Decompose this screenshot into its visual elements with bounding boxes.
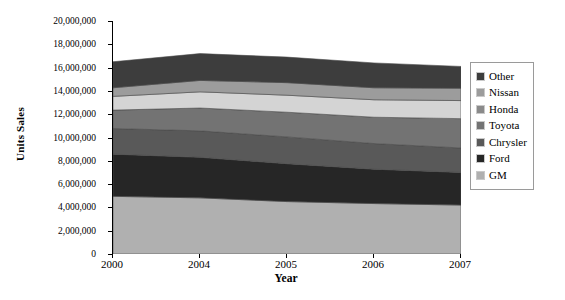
legend-swatch-icon bbox=[476, 138, 485, 147]
legend-item-label: Ford bbox=[489, 153, 510, 164]
legend-item-toyota[interactable]: Toyota bbox=[476, 118, 527, 135]
x-axis-tick-label: 2006 bbox=[343, 258, 403, 270]
x-axis-tick-label: 2000 bbox=[82, 258, 142, 270]
legend-item-honda[interactable]: Honda bbox=[476, 101, 527, 118]
legend-item-gm[interactable]: GM bbox=[476, 167, 527, 184]
legend-item-label: Other bbox=[489, 71, 514, 82]
x-axis-tick-mark bbox=[286, 254, 287, 258]
x-axis-tick-mark bbox=[112, 254, 113, 258]
legend-swatch-icon bbox=[476, 154, 485, 163]
x-axis-tick-label: 2004 bbox=[169, 258, 229, 270]
legend-item-ford[interactable]: Ford bbox=[476, 151, 527, 168]
x-axis-tick-mark bbox=[460, 254, 461, 258]
legend-item-nissan[interactable]: Nissan bbox=[476, 85, 527, 102]
legend-swatch-icon bbox=[476, 105, 485, 114]
legend-item-label: Nissan bbox=[489, 87, 519, 98]
legend-item-label: GM bbox=[489, 170, 507, 181]
legend-swatch-icon bbox=[476, 121, 485, 130]
legend-swatch-icon bbox=[476, 72, 485, 81]
legend-item-other[interactable]: Other bbox=[476, 68, 527, 85]
x-axis-tick-label: 2007 bbox=[430, 258, 490, 270]
legend-item-chrysler[interactable]: Chrysler bbox=[476, 134, 527, 151]
x-axis-tick-mark bbox=[199, 254, 200, 258]
legend-item-label: Chrysler bbox=[489, 137, 527, 148]
legend-item-label: Toyota bbox=[489, 120, 519, 131]
x-axis-tick-label: 2005 bbox=[256, 258, 316, 270]
legend-item-label: Honda bbox=[489, 104, 518, 115]
stacked-area-chart: 02,000,0004,000,0006,000,0008,000,00010,… bbox=[0, 0, 565, 300]
x-axis-title: Year bbox=[112, 272, 460, 284]
chart-legend: OtherNissanHondaToyotaChryslerFordGM bbox=[470, 62, 534, 190]
legend-swatch-icon bbox=[476, 171, 485, 180]
x-axis-tick-mark bbox=[373, 254, 374, 258]
legend-swatch-icon bbox=[476, 88, 485, 97]
